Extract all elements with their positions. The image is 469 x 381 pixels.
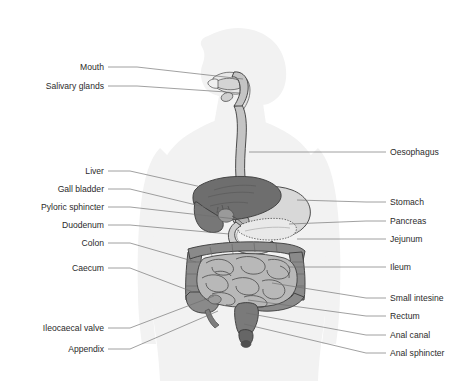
- label-pancreas: Pancreas: [390, 216, 426, 226]
- ileocaecal-valve-shape: [208, 295, 221, 304]
- ileocaecal-valve-group: [208, 295, 221, 304]
- label-oesophagus: Oesophagus: [390, 147, 439, 157]
- digestive-system-diagram: MouthSalivary glandsLiverGall bladderPyl…: [0, 0, 469, 381]
- label-salivary-glands: Salivary glands: [46, 81, 104, 91]
- label-small-intestine: Small intesine: [390, 293, 444, 303]
- label-ileum: Ileum: [390, 262, 411, 272]
- digestive-system-figure: MouthSalivary glandsLiverGall bladderPyl…: [0, 0, 469, 381]
- label-appendix: Appendix: [68, 344, 105, 354]
- label-rectum: Rectum: [390, 311, 420, 321]
- label-ileocaecal-valve: Ileocaecal valve: [43, 323, 104, 333]
- label-jejunum: Jejunum: [390, 234, 422, 244]
- label-gall-bladder: Gall bladder: [58, 184, 104, 194]
- label-mouth: Mouth: [80, 62, 104, 72]
- label-colon: Colon: [82, 238, 105, 248]
- label-anal-canal: Anal canal: [390, 330, 430, 340]
- label-duodenum: Duodenum: [62, 220, 104, 230]
- label-pyloric-sphincter: Pyloric sphincter: [41, 202, 104, 212]
- label-anal-sphincter: Anal sphincter: [390, 348, 445, 358]
- label-stomach: Stomach: [390, 197, 424, 207]
- anal-sphincter-shape: [241, 341, 251, 348]
- label-liver: Liver: [85, 166, 104, 176]
- label-caecum: Caecum: [72, 263, 104, 273]
